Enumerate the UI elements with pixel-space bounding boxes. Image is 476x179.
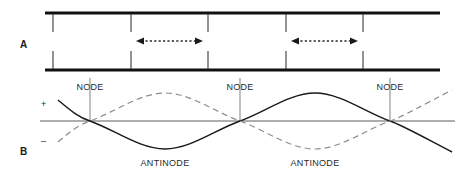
particle-motion-arrow-left-head-west [136,38,144,45]
particle-motion-arrow-left [136,38,203,45]
panel-a-group: A [20,13,440,70]
node-label-2: NODE [226,82,253,92]
node-label-3: NODE [376,82,403,92]
panel-a-letter: A [20,39,27,50]
tube-bottom-ticks [53,51,363,69]
tube-top-ticks [53,14,363,32]
node-label-1: NODE [76,82,103,92]
figure-canvas: A [0,0,476,179]
dashed-displacement-wave [58,90,452,149]
standing-wave-figure: A [0,0,476,179]
particle-motion-arrow-right-head-east [350,38,358,45]
antinode-label-1: ANTINODE [141,158,190,168]
solid-displacement-wave [58,93,452,152]
positive-sign-label: + [41,99,46,109]
particle-motion-arrow-left-head-east [195,38,203,45]
particle-motion-arrow-right-head-west [291,38,299,45]
panel-b-letter: B [20,146,27,157]
antinode-label-2: ANTINODE [291,158,340,168]
particle-motion-arrow-right [291,38,358,45]
negative-sign-label: – [41,136,46,146]
